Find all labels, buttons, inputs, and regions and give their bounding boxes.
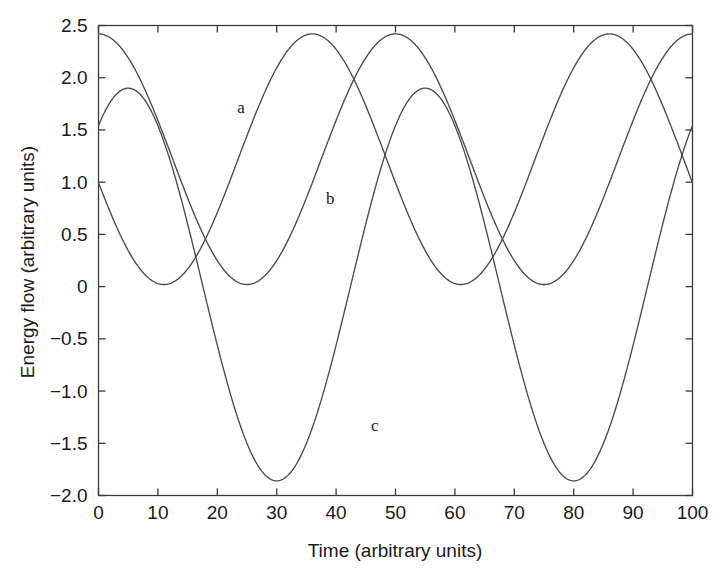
x-tick-label: 100 xyxy=(677,502,709,523)
y-tick-label: 1.5 xyxy=(61,119,87,140)
x-tick-label: 20 xyxy=(207,502,228,523)
x-tick-label: 80 xyxy=(563,502,584,523)
y-tick-label: 0.5 xyxy=(61,224,87,245)
x-tick-label: 60 xyxy=(444,502,465,523)
x-tick-label: 30 xyxy=(266,502,287,523)
y-tick-label: 2.5 xyxy=(61,15,87,36)
curve-label-c: c xyxy=(371,416,379,435)
energy-flow-line-chart: 0102030405060708090100 −2.0−1.5−1.0−0.50… xyxy=(0,0,716,572)
y-tick-label: 1.0 xyxy=(61,172,87,193)
curve-label-a: a xyxy=(237,98,245,117)
y-axis-title: Energy flow (arbitrary units) xyxy=(17,146,38,378)
y-tick-label: −0.5 xyxy=(50,328,88,349)
x-tick-label: 0 xyxy=(93,502,104,523)
chart-figure: 0102030405060708090100 −2.0−1.5−1.0−0.50… xyxy=(0,0,716,572)
y-tick-label: −1.0 xyxy=(50,381,88,402)
y-tick-label: 0 xyxy=(77,276,88,297)
chart-background xyxy=(0,0,716,572)
curve-label-b: b xyxy=(326,189,335,208)
x-tick-label: 70 xyxy=(504,502,525,523)
x-tick-label: 10 xyxy=(147,502,168,523)
y-tick-label: −2.0 xyxy=(50,485,88,506)
y-tick-label: 2.0 xyxy=(61,67,87,88)
x-tick-label: 90 xyxy=(623,502,644,523)
x-tick-label: 40 xyxy=(326,502,347,523)
x-tick-label: 50 xyxy=(385,502,406,523)
y-tick-label: −1.5 xyxy=(50,433,88,454)
x-axis-title: Time (arbitrary units) xyxy=(308,540,483,561)
